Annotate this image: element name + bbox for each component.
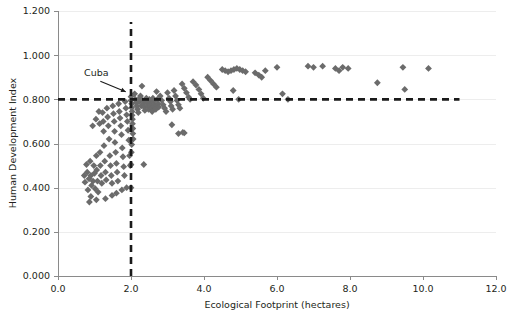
y-tick-label: 0.800 bbox=[23, 94, 50, 105]
data-point bbox=[122, 105, 129, 112]
data-point bbox=[109, 180, 116, 187]
data-point bbox=[104, 114, 111, 121]
x-axis-title: Ecological Footprint (hectares) bbox=[204, 299, 349, 310]
y-tick-label: 0.200 bbox=[23, 226, 50, 237]
data-points-group bbox=[81, 63, 432, 206]
data-point bbox=[117, 115, 124, 122]
x-tick-label: 2.0 bbox=[123, 283, 138, 294]
data-point bbox=[114, 169, 121, 176]
data-point bbox=[105, 122, 112, 129]
data-point bbox=[115, 100, 122, 107]
x-tick-label: 4.0 bbox=[196, 283, 211, 294]
data-point bbox=[230, 87, 237, 94]
y-tick-labels-group: 0.0000.2000.4000.6000.8001.0001.200 bbox=[23, 5, 50, 281]
data-point bbox=[108, 172, 115, 179]
data-point bbox=[401, 86, 408, 93]
data-point bbox=[87, 193, 94, 200]
reference-lines-group bbox=[58, 22, 460, 276]
data-point bbox=[111, 118, 118, 125]
tick-marks-group bbox=[54, 12, 497, 281]
data-point bbox=[121, 172, 128, 179]
data-point bbox=[120, 163, 127, 170]
data-point bbox=[114, 178, 121, 185]
data-point bbox=[107, 162, 114, 169]
axis-lines-group bbox=[58, 11, 496, 277]
data-point bbox=[100, 128, 107, 135]
y-tick-label: 0.400 bbox=[23, 182, 50, 193]
data-point bbox=[310, 64, 317, 71]
data-point bbox=[104, 105, 111, 112]
y-tick-label: 0.000 bbox=[23, 270, 50, 281]
data-point bbox=[262, 67, 269, 74]
x-tick-labels-group: 0.02.04.06.08.010.012.0 bbox=[50, 283, 506, 294]
annotations-group: Cuba bbox=[84, 67, 126, 92]
x-tick-label: 10.0 bbox=[412, 283, 433, 294]
data-point bbox=[374, 79, 381, 86]
data-point bbox=[117, 122, 124, 129]
data-point bbox=[425, 65, 432, 72]
data-point bbox=[116, 108, 123, 115]
x-tick-label: 6.0 bbox=[269, 283, 284, 294]
x-tick-label: 0.0 bbox=[50, 283, 65, 294]
data-point bbox=[123, 111, 130, 118]
data-point bbox=[101, 142, 108, 149]
x-tick-label: 12.0 bbox=[485, 283, 506, 294]
x-tick-label: 8.0 bbox=[342, 283, 357, 294]
data-point bbox=[112, 149, 119, 156]
data-point bbox=[345, 65, 352, 72]
data-point bbox=[106, 152, 113, 159]
gridlines-group bbox=[58, 12, 496, 277]
data-point bbox=[86, 199, 93, 206]
scatter-chart: Cuba 0.0000.2000.4000.6000.8001.0001.200… bbox=[0, 0, 509, 318]
data-point bbox=[109, 103, 116, 110]
data-point bbox=[140, 161, 147, 168]
data-point bbox=[102, 195, 109, 202]
data-point bbox=[305, 63, 312, 70]
data-point bbox=[119, 145, 126, 152]
data-point bbox=[274, 64, 281, 71]
data-point bbox=[113, 160, 120, 167]
data-point bbox=[93, 196, 100, 203]
data-point bbox=[106, 136, 113, 143]
data-point bbox=[139, 83, 146, 90]
data-point bbox=[110, 110, 117, 117]
y-axis-title: Human Development Index bbox=[7, 77, 18, 208]
data-point bbox=[400, 64, 407, 71]
y-tick-label: 0.600 bbox=[23, 138, 50, 149]
data-point bbox=[120, 153, 127, 160]
data-point bbox=[319, 63, 326, 70]
data-point bbox=[168, 121, 175, 128]
annotation-label-cuba: Cuba bbox=[84, 67, 109, 78]
data-point bbox=[118, 131, 125, 138]
data-point bbox=[111, 128, 118, 135]
chart-canvas: Cuba 0.0000.2000.4000.6000.8001.0001.200… bbox=[0, 0, 509, 318]
data-point bbox=[89, 122, 96, 129]
y-tick-label: 1.200 bbox=[23, 5, 50, 16]
y-tick-label: 1.000 bbox=[23, 50, 50, 61]
data-point bbox=[101, 158, 108, 165]
data-point bbox=[164, 89, 171, 96]
data-point bbox=[279, 90, 286, 97]
data-point bbox=[171, 87, 178, 94]
